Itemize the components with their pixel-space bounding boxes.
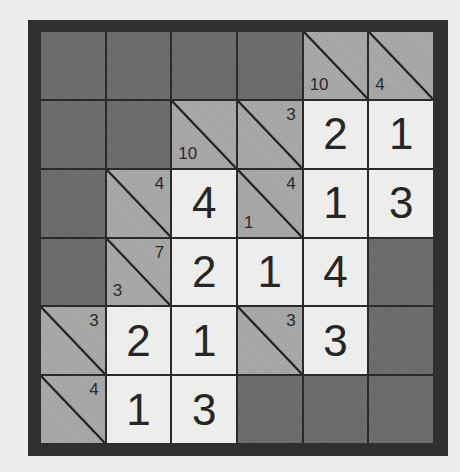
entry-digit: 1: [172, 307, 236, 374]
entry-digit: 2: [304, 101, 368, 168]
kakuro-grid: 104103214441137321432133413: [41, 32, 433, 443]
clue-down-sum: 10: [310, 76, 329, 93]
block-cell: [41, 101, 105, 168]
clue-across-sum: 7: [155, 244, 164, 261]
block-cell: [41, 239, 105, 306]
block-cell: [172, 32, 236, 99]
entry-digit: 1: [304, 170, 368, 237]
entry-cell[interactable]: 1: [107, 376, 171, 443]
entry-digit: 3: [172, 376, 236, 443]
clue-cell: 10: [172, 101, 236, 168]
entry-cell[interactable]: 3: [304, 307, 368, 374]
clue-across-sum: 3: [286, 312, 295, 329]
block-cell: [369, 376, 433, 443]
puzzle-frame: 104103214441137321432133413: [28, 20, 448, 456]
clue-across-sum: 4: [155, 175, 164, 192]
entry-digit: 4: [172, 170, 236, 237]
entry-cell[interactable]: 2: [172, 239, 236, 306]
entry-cell[interactable]: 1: [304, 170, 368, 237]
entry-digit: 1: [369, 101, 433, 168]
entry-cell[interactable]: 1: [369, 101, 433, 168]
clue-down-sum: 3: [113, 282, 122, 299]
clue-across-sum: 4: [89, 381, 98, 398]
block-cell: [369, 239, 433, 306]
entry-digit: 2: [107, 307, 171, 374]
clue-cell: 4: [41, 376, 105, 443]
entry-cell[interactable]: 3: [172, 376, 236, 443]
clue-cell: 4: [369, 32, 433, 99]
block-cell: [107, 101, 171, 168]
clue-cell: 3: [238, 101, 302, 168]
entry-digit: 4: [304, 239, 368, 306]
entry-cell[interactable]: 4: [172, 170, 236, 237]
clue-across-sum: 3: [286, 106, 295, 123]
clue-cell: 73: [107, 239, 171, 306]
block-cell: [369, 307, 433, 374]
block-cell: [41, 32, 105, 99]
entry-cell[interactable]: 4: [304, 239, 368, 306]
clue-cell: 3: [41, 307, 105, 374]
entry-digit: 2: [172, 239, 236, 306]
entry-cell[interactable]: 1: [238, 239, 302, 306]
entry-digit: 1: [238, 239, 302, 306]
block-cell: [238, 32, 302, 99]
clue-across-sum: 4: [286, 175, 295, 192]
block-cell: [304, 376, 368, 443]
entry-cell[interactable]: 1: [172, 307, 236, 374]
entry-cell[interactable]: 2: [107, 307, 171, 374]
block-cell: [41, 170, 105, 237]
entry-digit: 3: [369, 170, 433, 237]
clue-down-sum: 10: [178, 145, 197, 162]
clue-across-sum: 3: [89, 312, 98, 329]
entry-cell[interactable]: 3: [369, 170, 433, 237]
clue-cell: 41: [238, 170, 302, 237]
clue-cell: 4: [107, 170, 171, 237]
block-cell: [107, 32, 171, 99]
block-cell: [238, 376, 302, 443]
entry-cell[interactable]: 2: [304, 101, 368, 168]
clue-down-sum: 4: [375, 76, 384, 93]
entry-digit: 3: [304, 307, 368, 374]
clue-cell: 10: [304, 32, 368, 99]
clue-down-sum: 1: [244, 214, 253, 231]
clue-cell: 3: [238, 307, 302, 374]
entry-digit: 1: [107, 376, 171, 443]
